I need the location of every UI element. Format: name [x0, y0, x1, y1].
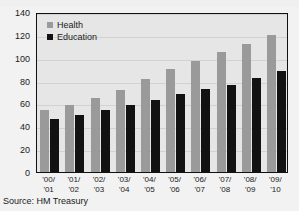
- x-tick-label-line: '06/: [193, 175, 206, 185]
- chart-legend: Health Education: [47, 19, 97, 43]
- x-tick-label: '04/'05: [143, 175, 156, 195]
- bar-group: [141, 14, 160, 172]
- bar-education: [176, 94, 185, 172]
- x-tick-label-line: '10: [269, 185, 282, 195]
- x-tick-label: '00/'01: [42, 175, 55, 195]
- bar-group: [166, 14, 185, 172]
- cropped-caption-strip: [0, 0, 299, 7]
- bar-health: [191, 61, 200, 172]
- y-tick-label: 80: [20, 77, 30, 86]
- x-tick-label-line: '01/: [67, 175, 80, 185]
- x-axis: '00/'01'01/'02'02/'03'03/'04'04/'05'05/'…: [36, 175, 288, 197]
- bar-health: [141, 79, 150, 172]
- y-axis: 020406080100120140: [0, 13, 33, 173]
- bar-health: [166, 69, 175, 172]
- bar-education: [50, 119, 59, 172]
- x-tick-label: '01/'02: [67, 175, 80, 195]
- x-tick-label-line: '05: [143, 185, 156, 195]
- x-tick-label-line: '04/: [143, 175, 156, 185]
- x-tick-label: '05/'06: [168, 175, 181, 195]
- legend-swatch-health-icon: [47, 22, 53, 28]
- legend-swatch-education-icon: [47, 34, 53, 40]
- bar-education: [277, 71, 286, 172]
- bar-education: [252, 78, 261, 172]
- y-tick-label: 120: [15, 31, 30, 40]
- bar-health: [242, 44, 251, 172]
- legend-item-education: Education: [47, 31, 97, 43]
- bar-group: [267, 14, 286, 172]
- bar-education: [227, 85, 236, 172]
- bar-education: [101, 110, 110, 172]
- bar-health: [267, 35, 276, 172]
- x-tick-label-line: '05/: [168, 175, 181, 185]
- y-tick-label: 0: [25, 169, 30, 178]
- y-tick-label: 20: [20, 146, 30, 155]
- bar-education: [151, 100, 160, 172]
- bar-health: [40, 110, 49, 172]
- x-tick-label-line: '09: [244, 185, 257, 195]
- x-tick-label-line: '09/: [269, 175, 282, 185]
- chart-figure: 020406080100120140 Health Education '00/…: [0, 0, 299, 211]
- x-tick-label-line: '03/: [118, 175, 131, 185]
- legend-label-education: Education: [57, 32, 97, 42]
- bar-education: [75, 115, 84, 172]
- bar-education: [126, 105, 135, 172]
- x-tick-label-line: '00/: [42, 175, 55, 185]
- bar-group: [191, 14, 210, 172]
- bar-health: [65, 105, 74, 172]
- x-tick-label-line: '03: [93, 185, 106, 195]
- x-tick-label-line: '07: [193, 185, 206, 195]
- chart-plot-frame: Health Education: [36, 13, 288, 173]
- x-tick-label-line: '01: [42, 185, 55, 195]
- bar-health: [91, 98, 100, 172]
- x-tick-label: '02/'03: [93, 175, 106, 195]
- legend-item-health: Health: [47, 19, 97, 31]
- source-note: Source: HM Treasury: [3, 196, 88, 206]
- x-tick-label-line: '04: [118, 185, 131, 195]
- y-tick-label: 40: [20, 123, 30, 132]
- x-tick-label-line: '06: [168, 185, 181, 195]
- bar-group: [116, 14, 135, 172]
- x-tick-label: '09/'10: [269, 175, 282, 195]
- x-tick-label: '08/'09: [244, 175, 257, 195]
- x-tick-label-line: '07/: [219, 175, 232, 185]
- x-tick-label: '03/'04: [118, 175, 131, 195]
- x-tick-label-line: '02: [67, 185, 80, 195]
- y-tick-label: 140: [15, 9, 30, 18]
- bar-education: [201, 89, 210, 172]
- legend-label-health: Health: [57, 20, 83, 30]
- x-tick-label-line: '02/: [93, 175, 106, 185]
- x-tick-label-line: '08: [219, 185, 232, 195]
- bar-group: [217, 14, 236, 172]
- x-tick-label-line: '08/: [244, 175, 257, 185]
- bar-group: [242, 14, 261, 172]
- x-tick-label: '06/'07: [193, 175, 206, 195]
- x-tick-label: '07/'08: [219, 175, 232, 195]
- bar-health: [116, 90, 125, 172]
- bar-health: [217, 52, 226, 172]
- y-tick-label: 60: [20, 100, 30, 109]
- y-tick-label: 100: [15, 54, 30, 63]
